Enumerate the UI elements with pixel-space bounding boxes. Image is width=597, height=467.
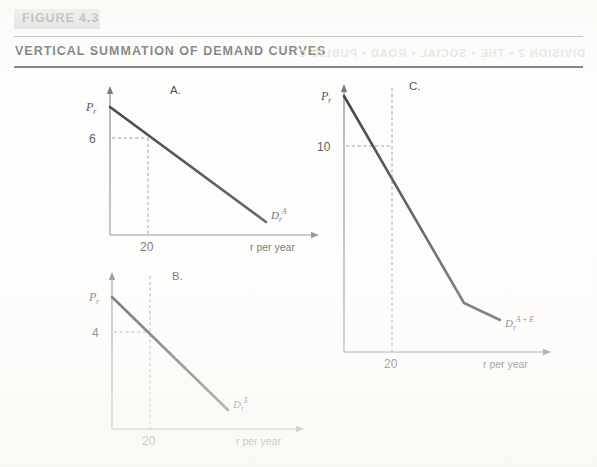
panel-c-y-tick-10: 10 bbox=[317, 140, 331, 154]
panel-c-x-tick-20: 20 bbox=[384, 357, 398, 371]
panel-c-y-axis-label: Pr bbox=[320, 89, 331, 105]
panel-c-x-axis-arrow bbox=[543, 349, 551, 355]
panel-c-x-axis-label: r per year bbox=[483, 358, 528, 370]
figure-page: FIGURE 4.3 VERTICAL SUMMATION OF DEMAND … bbox=[0, 0, 597, 467]
panel-b-x-axis-arrow bbox=[296, 426, 304, 432]
panel-c-y-axis-arrow bbox=[341, 84, 347, 92]
panel-c-curve-label: DrA + E bbox=[504, 315, 534, 332]
panel-b-x-tick-20: 20 bbox=[142, 434, 156, 448]
chart-panel-c: Pr 10 20 r per year DrA + E bbox=[0, 0, 597, 400]
panel-b-x-axis-label: r per year bbox=[236, 435, 281, 447]
panel-c-demand-curve bbox=[344, 96, 500, 320]
